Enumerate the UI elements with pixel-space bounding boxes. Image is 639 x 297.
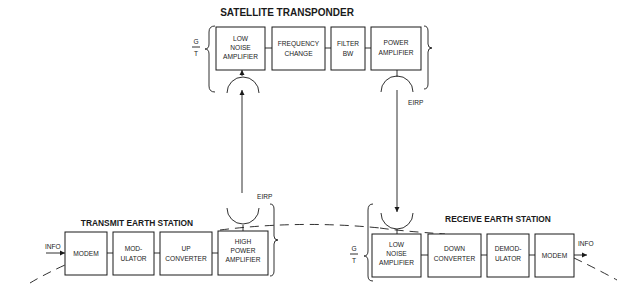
block-text: CHANGE bbox=[284, 50, 313, 57]
earth-horizon-right-top bbox=[380, 228, 445, 234]
block-text: POWER bbox=[384, 39, 409, 46]
left-brace bbox=[205, 26, 215, 92]
transmit-right-brace bbox=[270, 204, 278, 276]
receive-earth-station: RECEIVE EARTH STATION G T LOW NOISE AMPL… bbox=[350, 204, 594, 281]
transmit-info-label: INFO bbox=[45, 243, 61, 250]
g-label: G bbox=[351, 245, 356, 252]
block-text: POWER bbox=[231, 247, 256, 254]
block-text: LOW bbox=[233, 35, 249, 42]
block-text: AMPLIFIER bbox=[226, 256, 261, 263]
block-text: AMPLIFIER bbox=[379, 259, 414, 266]
block-text: NOISE bbox=[386, 250, 407, 257]
receive-info-label: INFO bbox=[578, 240, 594, 247]
block-text: HIGH bbox=[235, 238, 252, 245]
block-text: ULATOR bbox=[495, 255, 521, 262]
satellite-transponder: SATELLITE TRANSPONDER G T LOW NOISE AMPL… bbox=[192, 7, 432, 106]
transmit-title: TRANSMIT EARTH STATION bbox=[81, 218, 193, 228]
tx-modulator-block bbox=[113, 232, 154, 275]
block-text: CONVERTER bbox=[165, 255, 207, 262]
block-text: UP bbox=[181, 245, 191, 252]
block-text: CONVERTER bbox=[434, 255, 476, 262]
block-text: MOD- bbox=[125, 245, 143, 252]
block-text: BW bbox=[343, 50, 354, 57]
earth-horizon-top bbox=[220, 224, 380, 230]
receive-g-over-t: G T bbox=[350, 245, 358, 264]
t-label: T bbox=[194, 50, 198, 57]
satellite-g-over-t: G T bbox=[192, 38, 200, 57]
tx-up-converter-block bbox=[160, 232, 212, 275]
block-text: AMPLIFIER bbox=[379, 49, 414, 56]
block-text: MODEM bbox=[542, 252, 567, 259]
sat-filter-bw-block bbox=[331, 27, 365, 70]
block-text: FILTER bbox=[337, 40, 359, 47]
satellite-title: SATELLITE TRANSPONDER bbox=[220, 7, 354, 18]
right-brace bbox=[424, 26, 432, 89]
transmit-dish-icon bbox=[227, 208, 259, 224]
block-text: ULATOR bbox=[120, 255, 146, 262]
block-text: LOW bbox=[389, 241, 405, 248]
block-text: NOISE bbox=[230, 44, 251, 51]
g-label: G bbox=[193, 38, 198, 45]
block-text: DEMOD- bbox=[495, 245, 522, 252]
block-text: MODEM bbox=[73, 250, 98, 257]
block-text: AMPLIFIER bbox=[223, 53, 258, 60]
transmit-eirp-label: EIRP bbox=[257, 193, 273, 200]
block-text: FREQUENCY bbox=[278, 40, 320, 48]
t-label: T bbox=[352, 257, 356, 264]
satellite-receive-dish-icon bbox=[227, 77, 259, 93]
earth-horizon-left bbox=[30, 265, 65, 283]
receive-dish-icon bbox=[381, 213, 413, 229]
block-text: DOWN bbox=[444, 245, 465, 252]
receive-title: RECEIVE EARTH STATION bbox=[445, 214, 551, 224]
earth-horizon-right bbox=[574, 258, 617, 280]
sat-frequency-change-block bbox=[272, 27, 325, 70]
satellite-eirp-label: EIRP bbox=[408, 99, 424, 106]
satellite-link-diagram: SATELLITE TRANSPONDER G T LOW NOISE AMPL… bbox=[0, 0, 639, 297]
transmit-earth-station: TRANSMIT EARTH STATION INFO MODEM MOD- U… bbox=[45, 193, 278, 276]
satellite-transmit-dish-icon bbox=[381, 76, 413, 92]
